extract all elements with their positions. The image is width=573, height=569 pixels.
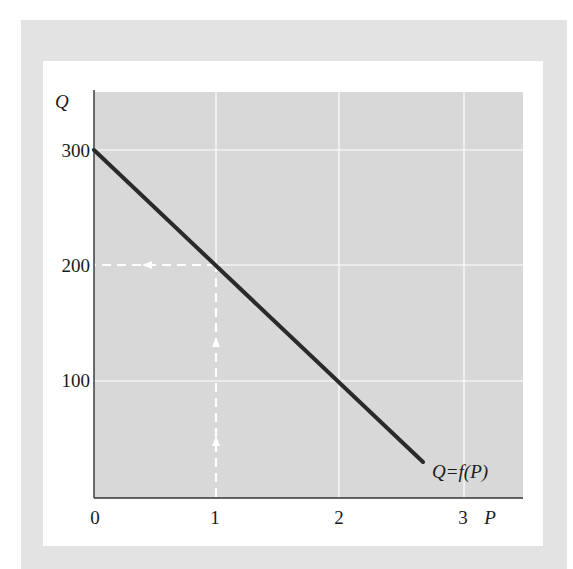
x-axis-label: P	[483, 507, 496, 528]
x-tick-2: 2	[334, 507, 344, 528]
y-tick-200: 200	[62, 255, 91, 276]
chart: Q 300 200 100 0 1 2 3 P Q=f(P)	[0, 0, 573, 569]
y-tick-300: 300	[62, 140, 91, 161]
x-tick-0: 0	[90, 507, 100, 528]
x-tick-3: 3	[458, 507, 468, 528]
curve-label: Q=f(P)	[432, 461, 488, 483]
y-tick-100: 100	[62, 370, 91, 391]
y-axis-label: Q	[55, 91, 69, 112]
x-tick-1: 1	[210, 507, 220, 528]
plot-area	[94, 92, 523, 498]
